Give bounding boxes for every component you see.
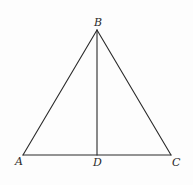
label-b: B xyxy=(93,16,102,29)
segment-ab xyxy=(23,30,97,155)
label-c: C xyxy=(172,156,181,169)
label-a: A xyxy=(14,155,23,168)
triangle-diagram: B A D C xyxy=(0,0,193,185)
diagram-svg: B A D C xyxy=(0,0,193,185)
label-d: D xyxy=(92,156,102,169)
segment-bc xyxy=(97,30,171,155)
